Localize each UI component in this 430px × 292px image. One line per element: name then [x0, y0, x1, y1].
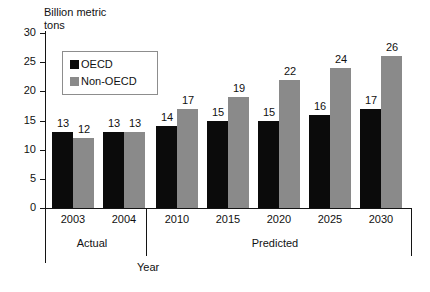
y-axis-tick: 5 — [0, 179, 46, 180]
x-axis-tick-label: 2010 — [154, 213, 200, 225]
bar-non-oecd — [381, 56, 402, 208]
section-label-actual: Actual — [52, 237, 132, 249]
bar-chart-figure: Billion metric tons 051015202530 1312131… — [0, 0, 430, 292]
y-axis-tick: 25 — [0, 62, 46, 63]
plot-right-boundary-line — [411, 209, 412, 256]
bar-value-label: 13 — [122, 118, 148, 129]
bar-non-oecd — [177, 109, 198, 208]
x-axis-title: Year — [137, 261, 159, 274]
gray-square-swatch-icon — [70, 77, 79, 86]
bar-value-label: 24 — [328, 54, 354, 65]
x-axis-tick-label: 2025 — [307, 213, 353, 225]
bar-non-oecd — [73, 138, 94, 208]
bar-oecd — [360, 109, 381, 208]
chart-legend: OECD Non-OECD — [62, 51, 158, 95]
x-axis-tick-label: 2015 — [205, 213, 251, 225]
y-axis-tick: 20 — [0, 91, 46, 92]
legend-item-non-oecd: Non-OECD — [70, 73, 157, 90]
x-axis-tick-label: 2030 — [358, 213, 404, 225]
y-axis-tick: 10 — [0, 150, 46, 151]
bar-non-oecd — [279, 80, 300, 208]
bar-value-label: 22 — [277, 66, 303, 77]
bar-group: 1522 — [258, 33, 300, 208]
bar-oecd — [258, 121, 279, 209]
legend-item-oecd: OECD — [70, 56, 157, 73]
bar-value-label: 12 — [71, 124, 97, 135]
bar-non-oecd — [124, 132, 145, 208]
bar-value-label: 26 — [379, 42, 405, 53]
bar-group: 1519 — [207, 33, 249, 208]
bar-non-oecd — [228, 97, 249, 208]
bar-group: 1417 — [156, 33, 198, 208]
y-axis-tick-label: 25 — [14, 56, 36, 67]
legend-label-non-oecd: Non-OECD — [81, 76, 137, 87]
black-square-swatch-icon — [70, 60, 79, 69]
x-axis-tick-label: 2003 — [50, 213, 96, 225]
bar-value-label: 17 — [175, 95, 201, 106]
legend-label-oecd: OECD — [81, 59, 113, 70]
y-axis-tick-label: 15 — [14, 115, 36, 126]
y-axis-tick: 15 — [0, 121, 46, 122]
y-axis-tick-label: 0 — [14, 202, 36, 213]
y-axis-tick: 0 — [0, 208, 46, 209]
y-axis-tick: 30 — [0, 33, 46, 34]
x-axis-tick-label: 2004 — [101, 213, 147, 225]
y-axis-tick-label: 20 — [14, 85, 36, 96]
chart-title: Billion metric tons — [44, 6, 106, 32]
bar-oecd — [309, 115, 330, 208]
section-label-predicted: Predicted — [220, 237, 330, 249]
y-axis-tick-mark — [40, 208, 46, 209]
bar-group: 1624 — [309, 33, 351, 208]
x-axis-tick-label: 2020 — [256, 213, 302, 225]
y-axis-tick-label: 10 — [14, 144, 36, 155]
x-axis-line — [45, 208, 412, 209]
bar-non-oecd — [330, 68, 351, 208]
bar-group: 1726 — [360, 33, 402, 208]
y-axis-tick-label: 5 — [14, 173, 36, 184]
bar-oecd — [103, 132, 124, 208]
bar-oecd — [52, 132, 73, 208]
bar-oecd — [207, 121, 228, 209]
y-axis-tick-label: 30 — [14, 27, 36, 38]
bar-oecd — [156, 126, 177, 208]
bar-value-label: 19 — [226, 83, 252, 94]
